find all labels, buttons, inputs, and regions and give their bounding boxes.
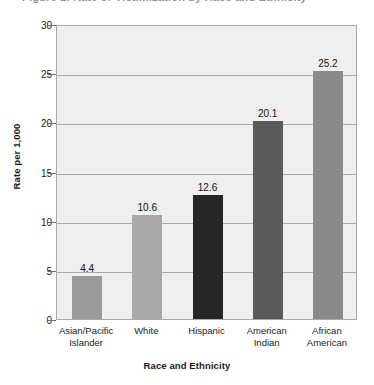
y-axis-tick-mark [48,222,56,223]
gridline [57,75,356,76]
y-axis-tick-label: 5 [12,265,52,276]
bar-chart: Figure 1. Rate of Victimization by Race … [0,0,374,385]
bar-value-label: 10.6 [138,202,157,213]
bar-group[interactable]: 12.6 [193,181,223,319]
y-axis-tick-label: 10 [12,216,52,227]
chart-title-clipped: Figure 1. Rate of Victimization by Race … [22,0,352,3]
bar-group[interactable]: 20.1 [253,107,283,319]
y-axis-tick-mark [48,74,56,75]
bar-group[interactable]: 25.2 [313,57,343,319]
x-axis-title: Race and Ethnicity [0,360,374,371]
bar-value-label: 12.6 [198,182,217,193]
gridline [57,124,356,125]
y-axis-tick-mark [48,271,56,272]
y-axis-tick-label: 15 [12,167,52,178]
bar[interactable] [313,71,343,319]
x-axis-category-label-line: White [116,325,176,337]
bar-value-label: 4.4 [80,263,94,274]
bar-group[interactable]: 10.6 [132,201,162,319]
y-axis-tick-label: 0 [12,315,52,326]
plot-area: 4.410.612.620.125.2 [56,25,357,320]
x-axis-category-label-line: Indian [237,337,297,349]
y-axis-tick-mark [48,123,56,124]
x-axis-category-label-line: Islander [56,337,116,349]
x-axis-category-label: Hispanic [176,325,236,337]
x-axis-category-label-line: Hispanic [176,325,236,337]
x-axis-category-label: Asian/PacificIslander [56,325,116,348]
y-axis-tick-label: 20 [12,118,52,129]
bar-group[interactable]: 4.4 [72,262,102,319]
x-axis-category-label: AfricanAmerican [297,325,357,348]
x-axis-category-label-line: African [297,325,357,337]
x-axis-category-label-line: Asian/Pacific [56,325,116,337]
y-axis-tick-mark [48,173,56,174]
y-axis-tick-label: 30 [12,20,52,31]
bar[interactable] [193,195,223,319]
y-axis-tick-mark [48,320,56,321]
y-axis-tick-label: 25 [12,69,52,80]
y-axis-tick-mark [48,25,56,26]
bar[interactable] [132,215,162,319]
bar[interactable] [253,121,283,319]
x-axis-category-label-line: American [297,337,357,349]
gridline [57,174,356,175]
bar-value-label: 25.2 [318,58,337,69]
bar[interactable] [72,276,102,319]
y-axis-title: Rate per 1,000 [11,97,22,217]
bar-value-label: 20.1 [258,108,277,119]
x-axis-category-label: AmericanIndian [237,325,297,348]
x-axis-category-label: White [116,325,176,337]
x-axis-category-label-line: American [237,325,297,337]
